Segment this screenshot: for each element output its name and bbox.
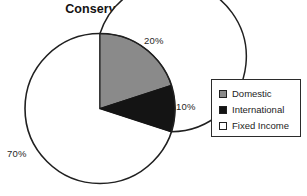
pie-label-domestic-percent: 20% <box>144 35 164 46</box>
legend-item-fixed-income[interactable]: Fixed Income <box>219 118 300 133</box>
pie-label-international-percent: 10% <box>176 101 196 112</box>
legend-swatch-domestic-icon <box>219 90 227 98</box>
legend-label-fixed-income: Fixed Income <box>232 120 289 131</box>
legend-item-domestic[interactable]: Domestic <box>219 86 300 101</box>
pie-chart-figure: Conservative 20% 10% 70% Domestic Intern… <box>0 0 307 196</box>
legend-swatch-fixed-income-icon <box>219 122 227 130</box>
legend-label-international: International <box>232 104 284 115</box>
legend-swatch-international-icon <box>219 106 227 114</box>
chart-legend: Domestic International Fixed Income <box>211 79 301 137</box>
legend-label-domestic: Domestic <box>232 88 272 99</box>
pie-label-fixed-income-percent: 70% <box>7 148 27 159</box>
legend-item-international[interactable]: International <box>219 102 300 117</box>
